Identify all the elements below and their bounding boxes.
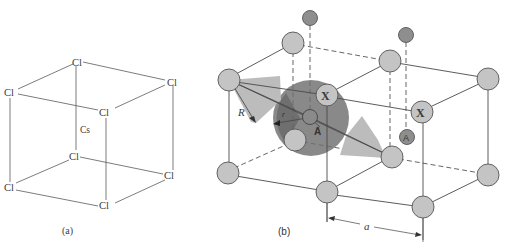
edge — [236, 176, 319, 190]
edge — [16, 190, 98, 206]
edge — [115, 85, 165, 108]
caption-a: (a) — [62, 225, 73, 237]
anion-sphere — [412, 196, 434, 218]
caption-b: (b) — [278, 226, 290, 237]
cl-label-bottom-front: Cl — [99, 200, 109, 211]
edge — [397, 63, 481, 77]
edge — [236, 47, 286, 74]
anion-sphere — [381, 146, 403, 168]
edge — [430, 83, 481, 107]
edge — [335, 160, 385, 187]
anion-sphere — [316, 181, 338, 203]
cs-label-center: Cs — [80, 125, 90, 135]
r-anion-label: R — [237, 106, 245, 118]
a-ion-sphere-center — [303, 110, 318, 125]
edge — [18, 64, 73, 89]
small-cation-top — [399, 28, 414, 43]
dashed-edge — [234, 144, 288, 168]
anion-sphere — [477, 68, 499, 90]
cl-label-bottom-right: Cl — [164, 170, 174, 181]
a-label-1: A — [314, 126, 321, 137]
edge — [16, 160, 69, 183]
edge — [115, 180, 165, 203]
dimension-line — [330, 218, 360, 224]
cl-label-bottom-left: Cl — [4, 182, 14, 193]
cl-label-top-back: Cl — [72, 57, 82, 68]
lattice-param-label: a — [364, 220, 370, 232]
anion-sphere — [282, 32, 304, 54]
a-label-2: A — [403, 133, 409, 143]
edge — [80, 157, 163, 174]
cl-label-top-right: Cl — [167, 77, 177, 88]
x-label-2: X — [416, 106, 425, 120]
edge — [335, 65, 383, 90]
edge — [18, 94, 98, 110]
dashed-edge — [300, 45, 383, 60]
diagram-canvas: Cl Cl Cl Cl Cs Cl Cl Cl Cl (a) — [0, 0, 507, 247]
arrowhead — [328, 216, 335, 221]
cl-label-top-front: Cl — [99, 107, 109, 118]
anion-sphere — [284, 129, 306, 151]
arrowhead — [415, 232, 422, 237]
cl-label-bottom-back: Cl — [69, 151, 79, 162]
anion-sphere — [477, 164, 499, 186]
r-cation-label: r — [282, 110, 285, 119]
small-cation-top — [303, 11, 318, 26]
anion-sphere — [379, 50, 401, 72]
edge — [430, 178, 481, 203]
dashed-edge — [399, 159, 480, 173]
anion-sphere — [217, 162, 239, 184]
edge — [83, 62, 165, 80]
cl-label-top-left: Cl — [4, 87, 14, 98]
figure-a-cubic-cell: Cl Cl Cl Cl Cs Cl Cl Cl Cl (a) — [4, 57, 177, 237]
x-label-1: X — [321, 89, 330, 103]
figure-b-lattice: X X A A R r a (b) — [217, 11, 499, 243]
dimension-line — [374, 227, 420, 235]
anion-sphere — [218, 69, 240, 91]
edge — [335, 195, 415, 206]
